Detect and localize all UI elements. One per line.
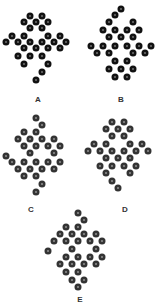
dot: [39, 39, 46, 46]
dot: [97, 148, 104, 155]
dot: [27, 39, 34, 46]
dot: [115, 126, 122, 133]
label-e: E: [77, 296, 82, 304]
label-c: C: [28, 206, 34, 214]
dot: [27, 150, 34, 157]
dot: [45, 143, 52, 150]
dot: [88, 43, 95, 50]
dot: [109, 119, 116, 126]
dot: [33, 143, 40, 150]
dot: [121, 163, 128, 170]
dot: [75, 284, 82, 291]
dot: [69, 277, 76, 284]
dot: [45, 19, 52, 26]
dot: [63, 269, 70, 276]
dot: [15, 136, 22, 143]
dot: [87, 254, 94, 261]
dot: [136, 27, 143, 34]
dot: [45, 33, 52, 40]
dot: [106, 66, 113, 73]
dot: [130, 66, 137, 73]
dot: [112, 43, 119, 50]
dot: [81, 277, 88, 284]
dot: [109, 133, 116, 140]
label-b: B: [118, 96, 124, 104]
dot: [39, 181, 46, 188]
dot: [51, 166, 58, 173]
dot: [103, 170, 110, 177]
dot: [75, 224, 82, 231]
dot: [121, 133, 128, 140]
dot: [33, 189, 40, 196]
dot: [21, 45, 28, 52]
dot: [21, 173, 28, 180]
dot: [39, 53, 46, 60]
dot: [27, 53, 34, 60]
dot: [39, 166, 46, 173]
dot: [148, 43, 155, 50]
dot: [21, 159, 28, 166]
dot: [39, 25, 46, 32]
dot: [57, 45, 64, 52]
dot: [63, 224, 70, 231]
dot: [27, 25, 34, 32]
dot: [69, 261, 76, 268]
dot: [133, 163, 140, 170]
dot: [118, 6, 125, 13]
dot: [130, 34, 137, 41]
dot: [27, 136, 34, 143]
dot: [127, 126, 134, 133]
dot: [124, 27, 131, 34]
dot: [142, 50, 149, 57]
dot: [39, 13, 46, 20]
dot: [115, 155, 122, 162]
dot: [136, 43, 143, 50]
dot: [93, 261, 100, 268]
dot: [45, 248, 52, 255]
dot: [115, 185, 122, 192]
dot: [9, 159, 16, 166]
dot: [121, 148, 128, 155]
dot: [63, 238, 70, 245]
dot: [99, 238, 106, 245]
dot: [39, 136, 46, 143]
dot: [109, 148, 116, 155]
dot: [33, 115, 40, 122]
dot: [112, 58, 119, 65]
dot: [21, 143, 28, 150]
dot: [3, 153, 10, 160]
dot: [21, 19, 28, 26]
dot: [133, 148, 140, 155]
dot: [63, 254, 70, 261]
dot: [127, 141, 134, 148]
dot: [57, 231, 64, 238]
dot: [139, 141, 146, 148]
dot: [91, 141, 98, 148]
dot: [124, 58, 131, 65]
dot: [39, 122, 46, 129]
dot: [27, 13, 34, 20]
dot: [93, 246, 100, 253]
dot: [15, 53, 22, 60]
dot: [51, 150, 58, 157]
dot: [106, 50, 113, 57]
dot: [33, 159, 40, 166]
dot: [81, 217, 88, 224]
dot: [33, 129, 40, 136]
dot: [121, 119, 128, 126]
dot: [75, 269, 82, 276]
dot: [33, 77, 40, 84]
dot: [97, 163, 104, 170]
dot: [33, 173, 40, 180]
dot: [103, 126, 110, 133]
dot: [75, 210, 82, 217]
dot: [127, 155, 134, 162]
dot: [87, 238, 94, 245]
dot: [112, 12, 119, 19]
dot: [33, 19, 40, 26]
dot: [21, 129, 28, 136]
dot: [69, 231, 76, 238]
dot: [130, 19, 137, 26]
dot: [57, 143, 64, 150]
dot: [45, 61, 52, 68]
